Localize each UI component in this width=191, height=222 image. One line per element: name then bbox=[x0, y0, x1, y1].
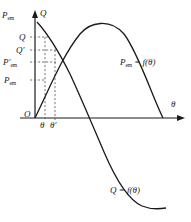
y-tick-label-pem: Pem bbox=[4, 76, 16, 85]
x-tick-label-theta: θ bbox=[40, 121, 44, 130]
origin-label: O bbox=[24, 110, 31, 119]
y-tick-label-pem-prime: P′em bbox=[3, 58, 17, 67]
guide-lines bbox=[30, 37, 56, 120]
y-axis-right-label: Q bbox=[40, 9, 47, 18]
y-axis-left-label: Pem bbox=[2, 11, 14, 20]
pem-curve-label: Pem = f(θ) bbox=[120, 58, 155, 67]
pem-curve bbox=[35, 23, 163, 118]
y-tick-label-q: Q bbox=[19, 33, 26, 42]
q-curve bbox=[37, 22, 166, 209]
q-curve-label: Q = f(θ) bbox=[110, 186, 140, 195]
y-axis bbox=[32, 10, 38, 118]
x-tick-label-theta-prime: θ′ bbox=[50, 121, 56, 130]
figure-container: Pem Q θ O Q Q′ P′em Pem θ θ′ Pem = f(θ) … bbox=[0, 0, 191, 222]
x-axis-label: θ bbox=[171, 100, 175, 109]
y-tick-label-q-prime: Q′ bbox=[16, 46, 24, 55]
